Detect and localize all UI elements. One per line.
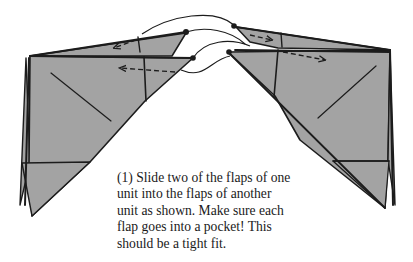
step-caption: (1) Slide two of the flaps of one unit i… [117, 170, 413, 252]
left-lower-flap [22, 162, 90, 216]
left-lower-flap-dot [190, 55, 196, 61]
right-lower-pocket-dot [226, 49, 232, 55]
right-vertical-crease-1 [281, 33, 282, 47]
right-upper-pocket-dot [231, 23, 237, 29]
left-upper-flap-dot [183, 29, 189, 35]
